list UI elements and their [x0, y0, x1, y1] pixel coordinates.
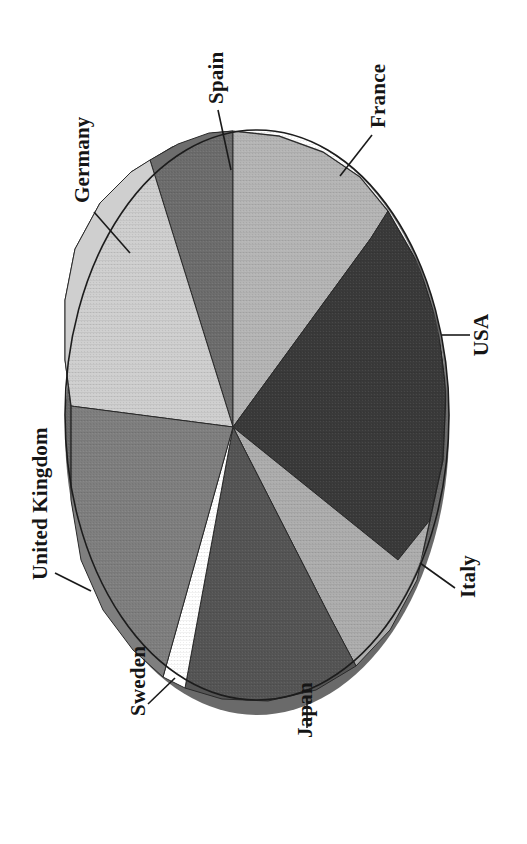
pie-label-united-kingdom: United Kingdom	[28, 427, 52, 580]
leader-line-sweden	[148, 678, 175, 704]
pie-label-spain: Spain	[204, 52, 228, 104]
pie-chart-figure: Spain France USA Italy Japan Sweden Unit…	[0, 0, 527, 844]
leader-line-italy	[420, 563, 455, 588]
pie-label-germany: Germany	[70, 116, 94, 203]
leader-line-united-kingdom	[55, 573, 91, 591]
pie-label-sweden: Sweden	[126, 646, 150, 716]
pie-label-japan: Japan	[293, 682, 317, 738]
pie-label-italy: Italy	[456, 555, 480, 598]
pie-label-france: France	[366, 64, 390, 128]
pie-chart-svg: Spain France USA Italy Japan Sweden Unit…	[0, 0, 527, 844]
pie-label-usa: USA	[469, 313, 493, 356]
